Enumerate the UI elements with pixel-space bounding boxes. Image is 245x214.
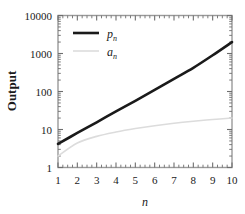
x-tick-label: 1 xyxy=(55,174,61,186)
y-tick-label: 10000 xyxy=(25,10,53,22)
x-tick-label: 10 xyxy=(227,174,239,186)
x-tick-label: 5 xyxy=(133,174,139,186)
x-tick-label: 6 xyxy=(152,174,158,186)
y-tick-label: 10 xyxy=(41,124,53,136)
chart-figure: 110100100010000 12345678910 Output n pna… xyxy=(0,0,245,214)
y-tick-label: 100 xyxy=(36,86,53,98)
x-axis-title-text: n xyxy=(142,195,148,209)
x-tick-label: 3 xyxy=(94,174,100,186)
x-axis-title: n xyxy=(142,195,148,209)
log-line-chart: 110100100010000 12345678910 Output n pna… xyxy=(0,0,245,214)
y-tick-label: 1 xyxy=(47,162,53,174)
y-axis-title: Output xyxy=(4,70,19,111)
x-tick-label: 7 xyxy=(171,174,177,186)
y-axis-title-text: Output xyxy=(4,70,19,111)
x-tick-label: 4 xyxy=(113,174,119,186)
y-tick-label: 1000 xyxy=(30,48,53,60)
x-tick-label: 8 xyxy=(191,174,197,186)
x-tick-label: 2 xyxy=(75,174,81,186)
x-tick-label: 9 xyxy=(210,174,216,186)
